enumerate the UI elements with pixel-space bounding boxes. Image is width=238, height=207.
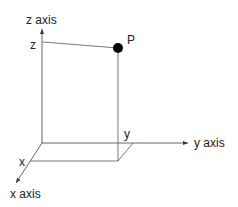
y-label: y — [124, 127, 130, 141]
point-p-label: P — [127, 33, 135, 47]
y-axis-label: y axis — [194, 136, 225, 150]
z-projection-line — [43, 42, 118, 48]
x-label: x — [19, 155, 25, 169]
y-projection-line — [118, 143, 133, 161]
point-p — [113, 43, 123, 53]
coordinate-diagram: z axis z P y y axis x x axis — [0, 0, 238, 207]
z-axis-label: z axis — [26, 13, 57, 27]
z-label: z — [30, 38, 36, 52]
x-axis-label: x axis — [10, 187, 41, 201]
